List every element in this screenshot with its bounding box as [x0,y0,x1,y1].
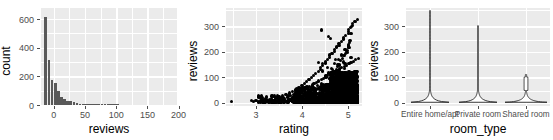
panel1-gridline-h-minor-300 [41,62,177,63]
panel1-gridline-v-150 [147,8,148,106]
panel1-y-tick-200: 200 [10,72,34,82]
scatter-point [257,94,260,97]
scatter-point [340,91,343,94]
panel1-gridline-v-minor-175 [163,8,164,106]
panel2-gridline-h-minor-350 [226,10,362,11]
scatter-point [355,86,358,89]
scatter-point [344,52,347,55]
scatter-point [323,84,326,87]
scatter-point [344,101,347,104]
panel1-y-tickmark-0 [37,105,40,106]
scatter-point [320,28,323,31]
panel3-category-shared-room: Shared room [493,110,553,119]
scatter-point [335,101,338,104]
histogram-bar [116,104,119,105]
panel3-y-tick-0: 0 [373,98,399,108]
scatter-point [353,76,356,79]
panel2-x-tick-4: 4 [290,110,314,120]
panel3-x-tickmark-entire [430,106,431,109]
scatter-point [286,100,289,103]
panel3-plot-area [406,8,550,106]
violin-shape [459,26,497,102]
panel3-y-tick-300: 300 [373,22,399,32]
panel2-y-tickmark-100 [222,77,225,78]
scatter-point [330,77,333,80]
panel1-gridline-v-minor-125 [132,8,133,106]
panel1-gridline-h-0 [41,105,177,106]
panel2-y-tickmark-300 [222,26,225,27]
panel1-x-axis-title: reviews [41,122,177,136]
scatter-point [317,61,320,64]
panel3-y-tickmark-200 [402,52,405,53]
panel1-y-tickmark-600 [37,19,40,20]
scatter-point [343,67,346,70]
scatter-point [310,96,313,99]
scatter-point [329,91,332,94]
scatter-point [337,58,340,61]
three-panel-figure: count 600 400 200 0 [0,0,553,140]
scatter-point [340,82,343,85]
panel1-x-tickmark-100 [116,106,117,109]
scatter-point [230,100,233,103]
scatter-point [355,100,358,103]
scatter-point [340,100,343,103]
panel2-x-tick-5: 5 [336,110,360,120]
panel3-y-tickmark-300 [402,26,405,27]
panel1-gridline-v-50 [85,8,86,106]
scatter-point [355,97,358,100]
scatter-point [300,96,303,99]
panel3-x-tickmark-private [478,106,479,109]
panel1-gridline-h-200 [41,76,177,77]
panel2-x-axis-title: rating [226,122,362,136]
panel1-gridline-v-100 [116,8,117,106]
panel1-gridline-v-minor-75 [101,8,102,106]
panel-histogram-reviews: count 600 400 200 0 [0,0,185,140]
panel3-y-tickmark-0 [402,103,405,104]
panel2-x-tickmark-5 [348,106,349,109]
panel1-x-tick-0: 0 [42,110,66,120]
panel1-gridline-h-400 [41,48,177,49]
scatter-point [313,93,316,96]
scatter-point [348,39,351,42]
panel1-gridline-h-minor-100 [41,91,177,92]
scatter-point [320,93,323,96]
panel2-gridline-v-minor-2.5 [233,8,234,106]
panel2-y-tick-0: 0 [193,98,219,108]
panel1-y-tick-0: 0 [10,101,34,111]
panel2-y-tick-100: 100 [193,73,219,83]
panel2-y-tickmark-0 [222,103,225,104]
scatter-point [303,94,306,97]
scatter-point [357,57,360,60]
panel1-y-tickmark-200 [37,76,40,77]
panel-scatter-rating-reviews: reviews 300 200 100 0 3 [185,0,368,140]
scatter-point [349,32,352,35]
scatter-point [335,83,338,86]
scatter-point [325,99,328,102]
panel1-x-tickmark-200 [179,106,180,109]
scatter-point [305,101,308,104]
scatter-point [261,100,264,103]
panel3-y-tickmark-100 [402,77,405,78]
panel2-gridline-v-3 [256,8,257,106]
panel1-x-tick-100: 100 [104,110,128,120]
panel1-y-tick-600: 600 [10,15,34,25]
panel3-x-axis-title: room_type [406,122,550,136]
scatter-point [287,95,290,98]
scatter-point [335,79,338,82]
panel1-y-tickmark-400 [37,48,40,49]
violin-shapes [406,8,550,106]
scatter-point [283,99,286,102]
scatter-point [333,95,336,98]
panel1-gridline-h-minor-500 [41,33,177,34]
panel3-y-tick-100: 100 [373,73,399,83]
panel1-x-tick-150: 150 [135,110,159,120]
panel1-gridline-h-600 [41,19,177,20]
panel1-x-tickmark-50 [85,106,86,109]
scatter-point [337,72,340,75]
scatter-point [341,57,344,60]
scatter-point [320,100,323,103]
scatter-point [275,100,278,103]
panel2-x-tickmark-4 [302,106,303,109]
panel1-x-tick-50: 50 [73,110,97,120]
scatter-point [297,91,300,94]
